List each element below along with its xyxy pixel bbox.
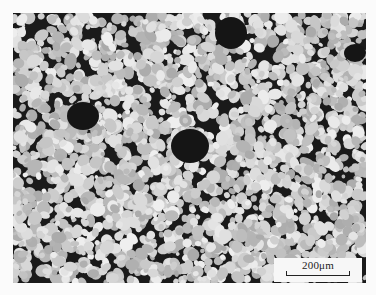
micrograph-texture	[13, 13, 366, 283]
micrograph-image: 200μm	[13, 13, 366, 283]
scale-bar: 200μm	[274, 258, 362, 282]
scale-bar-line	[286, 275, 350, 276]
scale-bar-tick-right	[349, 271, 350, 276]
scale-bar-label: 200μm	[274, 259, 362, 271]
figure-frame: 200μm	[0, 0, 376, 295]
